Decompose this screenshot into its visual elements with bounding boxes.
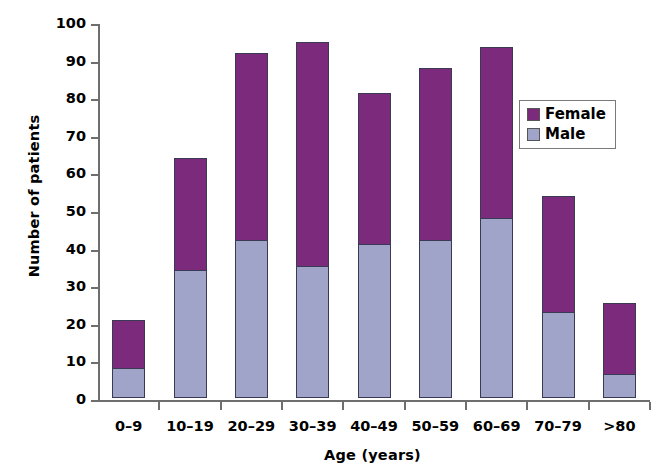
bar-segment-male-0–9 — [112, 368, 145, 398]
x-tick-2 — [281, 402, 283, 410]
x-tick-5 — [465, 402, 467, 410]
bar-0–9 — [112, 319, 145, 398]
bar-segment-male-50–59 — [419, 240, 452, 398]
x-axis-title: Age (years) — [100, 447, 645, 463]
legend-label-male: Male — [545, 127, 585, 142]
y-tick-90: 90 — [91, 62, 98, 64]
bar-segment-male-60–69 — [480, 218, 513, 398]
legend-swatch-female-icon — [527, 108, 540, 121]
bar-segment-male-30–39 — [296, 266, 329, 398]
y-tick-label-40: 40 — [66, 241, 86, 257]
bar-segment-female-10–19 — [174, 158, 207, 271]
bar-segment-female-60–69 — [480, 47, 513, 218]
bar-segment-female-30–39 — [296, 42, 329, 268]
x-axis-line — [98, 400, 650, 402]
y-axis-line — [98, 24, 100, 401]
y-tick-60: 60 — [91, 174, 98, 176]
y-tick-label-80: 80 — [66, 90, 86, 106]
bar-40–49 — [358, 92, 391, 398]
bar-10–19 — [174, 157, 207, 398]
chart-legend: Female Male — [519, 100, 616, 149]
y-tick-30: 30 — [91, 287, 98, 289]
x-tick-0 — [158, 402, 160, 410]
x-tick-label-2: 20–29 — [221, 418, 282, 434]
bar-70–79 — [542, 195, 575, 398]
bar-segment-female-50–59 — [419, 68, 452, 241]
y-tick-label-70: 70 — [66, 128, 86, 144]
plot-area: 0102030405060708090100 0–910–1920–2930–3… — [98, 24, 650, 400]
bar->80 — [603, 302, 636, 398]
bar-20–29 — [235, 52, 268, 398]
x-tick-label-3: 30–39 — [282, 418, 343, 434]
bar-segment-female-70–79 — [542, 196, 575, 313]
y-tick-20: 20 — [91, 325, 98, 327]
bar-segment-female-20–29 — [235, 53, 268, 241]
x-tick-label-7: 70–79 — [527, 418, 588, 434]
x-tick-label-5: 50–59 — [405, 418, 466, 434]
x-tick-1 — [220, 402, 222, 410]
x-tick-label-4: 40–49 — [343, 418, 404, 434]
legend-swatch-male-icon — [527, 128, 540, 141]
bar-segment-male-10–19 — [174, 270, 207, 398]
y-tick-10: 10 — [91, 362, 98, 364]
y-tick-100: 100 — [91, 24, 98, 26]
x-tick-8 — [649, 402, 651, 410]
bar-segment-male-40–49 — [358, 244, 391, 398]
bar-segment-male->80 — [603, 374, 636, 398]
bar-segment-female-0–9 — [112, 320, 145, 369]
legend-item-female: Female — [527, 104, 606, 124]
y-tick-50: 50 — [91, 212, 98, 214]
legend-item-male: Male — [527, 124, 606, 144]
bar-segment-female-40–49 — [358, 93, 391, 245]
y-tick-label-20: 20 — [66, 316, 86, 332]
y-axis-title: Number of patients — [26, 66, 42, 326]
bar-30–39 — [296, 41, 329, 398]
y-tick-70: 70 — [91, 137, 98, 139]
legend-label-female: Female — [545, 107, 606, 122]
x-tick-label-0: 0–9 — [98, 418, 159, 434]
stacked-bar-chart: Number of patients 010203040506070809010… — [0, 0, 663, 472]
y-tick-label-90: 90 — [66, 53, 86, 69]
x-tick-7 — [588, 402, 590, 410]
y-tick-40: 40 — [91, 250, 98, 252]
bar-50–59 — [419, 67, 452, 398]
x-tick-label-8: >80 — [589, 418, 650, 434]
x-tick-4 — [404, 402, 406, 410]
y-tick-80: 80 — [91, 99, 98, 101]
bar-segment-male-20–29 — [235, 240, 268, 398]
x-tick-6 — [526, 402, 528, 410]
y-tick-label-10: 10 — [66, 353, 86, 369]
y-tick-label-100: 100 — [56, 15, 86, 31]
x-tick-label-1: 10–19 — [159, 418, 220, 434]
bar-segment-male-70–79 — [542, 312, 575, 398]
y-tick-label-30: 30 — [66, 278, 86, 294]
x-tick-3 — [342, 402, 344, 410]
bar-60–69 — [480, 46, 513, 398]
x-tick-label-6: 60–69 — [466, 418, 527, 434]
y-tick-label-60: 60 — [66, 165, 86, 181]
bar-segment-female->80 — [603, 303, 636, 374]
y-tick-0: 0 — [91, 400, 98, 402]
y-tick-label-50: 50 — [66, 203, 86, 219]
y-tick-label-0: 0 — [76, 391, 86, 407]
